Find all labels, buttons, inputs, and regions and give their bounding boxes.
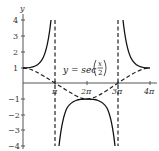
paren-right — [104, 60, 106, 76]
sec-graph: y 4 3 2 1 −1 −2 −3 −4 π 2π 3π 4π y = sec… — [0, 0, 159, 151]
equation-label: y = sec — [62, 65, 96, 75]
y-axis-label: y — [19, 4, 25, 13]
sec-branch-middle — [59, 99, 115, 146]
y-tick-label: −4 — [8, 142, 20, 151]
sec-branch-left — [23, 20, 51, 68]
y-tick-label: 2 — [13, 48, 18, 57]
y-tick-label: 4 — [13, 16, 18, 25]
y-tick-label: −2 — [8, 111, 20, 120]
y-tick-label: −3 — [8, 126, 20, 135]
sec-branch-right — [123, 20, 150, 68]
x-tick-label: 4π — [143, 87, 155, 96]
y-tick-label: 1 — [13, 64, 18, 73]
equation-denominator: 2 — [98, 69, 102, 77]
y-tick-label: −1 — [8, 95, 20, 104]
y-tick-label: 3 — [13, 32, 18, 41]
equation-numerator: x — [98, 60, 102, 68]
x-tick-label: 2π — [80, 87, 92, 96]
